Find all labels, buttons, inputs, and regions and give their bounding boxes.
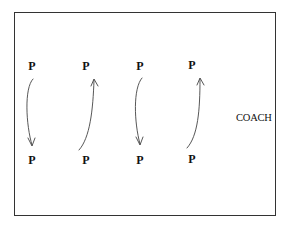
arrow-down-icon (27, 79, 35, 146)
movement-arrows (0, 0, 292, 229)
arrow-up-icon (187, 78, 204, 148)
arrow-up-icon (79, 79, 98, 150)
arrow-down-icon (135, 78, 143, 145)
